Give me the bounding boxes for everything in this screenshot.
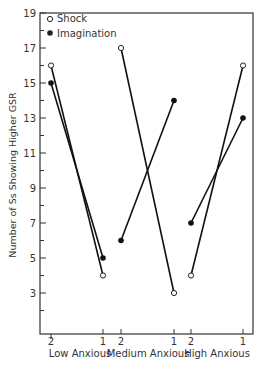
group-label-low: Low Anxious [49, 348, 111, 359]
y-tick-7: 7 [30, 218, 36, 229]
chart: 19 17 15 13 11 9 7 5 3 Number of Ss Show… [0, 0, 271, 369]
legend-shock: Shock [57, 13, 87, 24]
x-tick-high-2: 2 [188, 336, 194, 347]
filled-circle-icon [47, 30, 53, 36]
y-tick-5: 5 [30, 253, 36, 264]
x-tick-medium-1: 1 [171, 336, 177, 347]
y-tick-11: 11 [23, 148, 36, 159]
legend: Shock Imagination [47, 13, 116, 39]
y-axis [40, 13, 46, 311]
y-tick-19: 19 [23, 8, 36, 19]
y-tick-15: 15 [23, 78, 36, 89]
y-tick-3: 3 [30, 288, 36, 299]
y-axis-label: Number of Ss Showing Higher GSR [7, 92, 18, 258]
series-lines [51, 48, 243, 293]
x-tick-high-1: 1 [240, 336, 246, 347]
x-tick-low-1: 1 [100, 336, 106, 347]
x-tick-low-2: 2 [48, 336, 54, 347]
legend-imagination: Imagination [57, 28, 117, 39]
group-label-medium: Medium Anxious [107, 348, 190, 359]
open-circle-icon [47, 16, 52, 21]
y-tick-13: 13 [23, 113, 36, 124]
y-tick-9: 9 [30, 183, 36, 194]
group-label-high: High Anxious [184, 348, 250, 359]
x-tick-medium-2: 2 [118, 336, 124, 347]
y-tick-17: 17 [23, 43, 36, 54]
